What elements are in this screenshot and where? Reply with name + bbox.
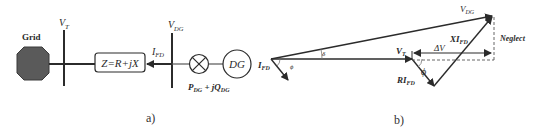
dg-label: DG <box>228 58 245 70</box>
phasor-vt-label: VT <box>396 46 406 57</box>
grid-icon <box>17 47 49 80</box>
grid-label: Grid <box>22 32 41 42</box>
phi-small-angle-arc <box>277 59 280 66</box>
power-meter-icon <box>190 55 209 74</box>
delta-label: δ <box>322 50 326 58</box>
vdg-bus-label: VDG <box>168 19 184 32</box>
panel-b-phasor-diagram: IFD VDG VT δ ϕ RIFD ϕ XIFD Neglect ΔV <box>257 4 526 127</box>
power-label: PDG + jQDG <box>188 82 230 93</box>
neglect-label: Neglect <box>499 34 526 43</box>
panel-b-caption: b) <box>394 113 404 127</box>
phi-label: ϕ <box>421 66 426 77</box>
panel-a-one-line-diagram: Grid VT Z=R+jX IFD VDG DG PDG + jQDG a) <box>17 17 251 125</box>
delta-v-label: ΔV <box>433 43 446 53</box>
figure: Grid VT Z=R+jX IFD VDG DG PDG + jQDG a) <box>0 0 545 134</box>
vt-bus-label: VT <box>59 17 70 31</box>
panel-a-caption: a) <box>146 111 155 125</box>
phasor-vdg-label: VDG <box>460 4 475 15</box>
ifd-label: IFD <box>151 46 164 58</box>
phi-small-label: ϕ <box>290 63 294 70</box>
phasor-ifd-label: IFD <box>257 60 271 71</box>
xifd-label: XIFD <box>449 34 469 45</box>
impedance-label: Z=R+jX <box>101 57 140 69</box>
rifd-label: RIFD <box>396 75 416 86</box>
